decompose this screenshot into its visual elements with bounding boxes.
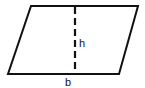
parallelogram-diagram: h b — [0, 0, 145, 88]
parallelogram-outline — [8, 6, 138, 74]
height-label: h — [79, 37, 85, 49]
base-label: b — [65, 76, 71, 88]
